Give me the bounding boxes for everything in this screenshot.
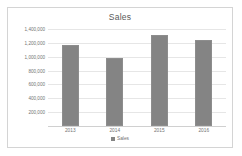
x-axis-tick-label: 2016	[182, 128, 227, 133]
y-axis-tick-label: 1,000,000	[25, 54, 45, 59]
x-axis-line	[48, 126, 226, 127]
y-axis-tick-label: 1,400,000	[25, 27, 45, 32]
legend-swatch-icon	[111, 137, 115, 141]
x-axis-tick-label: 2013	[48, 128, 93, 133]
bar-slot	[93, 29, 138, 126]
legend-label-sales: Sales	[117, 136, 129, 141]
chart-legend[interactable]: Sales	[8, 136, 232, 141]
chart-container[interactable]: Sales 1,400,0001,200,0001,000,000800,000…	[7, 7, 233, 148]
bar-2013[interactable]	[62, 45, 79, 126]
y-axis-tick-label: 600,000	[28, 82, 45, 87]
bar-series	[48, 29, 226, 126]
y-axis-tick-label: 200,000	[28, 110, 45, 115]
bar-slot	[48, 29, 93, 126]
y-axis-tick-label: 400,000	[28, 96, 45, 101]
plot-area: 1,400,0001,200,0001,000,000800,000600,00…	[48, 29, 226, 126]
x-axis-tick-label: 2015	[137, 128, 182, 133]
x-axis-tick-label: 2014	[93, 128, 138, 133]
y-axis-tick-label: 1,200,000	[25, 40, 45, 45]
bar-2016[interactable]	[195, 40, 212, 126]
bar-slot	[182, 29, 227, 126]
bar-2014[interactable]	[106, 58, 123, 126]
chart-title: Sales	[8, 12, 232, 22]
x-axis-tick-labels: 2013201420152016	[48, 128, 226, 133]
y-axis-tick-label: 800,000	[28, 68, 45, 73]
bar-slot	[137, 29, 182, 126]
bar-2015[interactable]	[151, 35, 168, 126]
